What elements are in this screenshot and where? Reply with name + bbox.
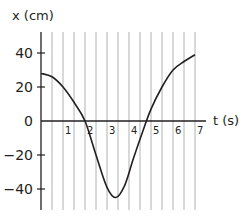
x-tick-label: 1 [65, 125, 71, 136]
x-axis-ticks: 1234567 [65, 125, 203, 136]
y-tick-label: 40 [15, 45, 33, 61]
y-tick-label: 0 [24, 113, 33, 129]
position-time-chart: 40200−20−40 1234567 x (cm) t (s) [0, 0, 248, 224]
y-axis-ticks: 40200−20−40 [3, 45, 45, 197]
x-tick-label: 5 [153, 125, 159, 136]
x-tick-label: 7 [197, 125, 203, 136]
y-tick-label: −40 [3, 181, 33, 197]
x-tick-label: 4 [131, 125, 137, 136]
y-axis-label: x (cm) [12, 8, 54, 23]
y-tick-label: 20 [15, 79, 33, 95]
x-tick-label: 3 [109, 125, 115, 136]
y-tick-label: −20 [3, 147, 33, 163]
x-axis-label: t (s) [213, 113, 239, 128]
x-tick-label: 6 [175, 125, 181, 136]
